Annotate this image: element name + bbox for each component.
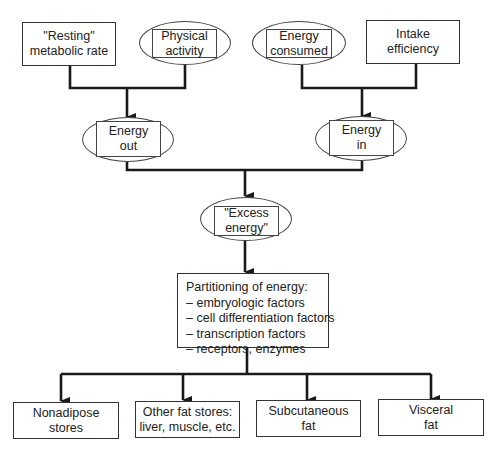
partitioning-item: – embryologic factors <box>186 296 320 312</box>
energy-out-label-box: Energy out <box>96 121 161 157</box>
energy-in-label-box: Energy in <box>329 120 394 156</box>
node-label-line: Energy <box>279 29 319 44</box>
energy-consumed-label-box: Energy consumed <box>266 29 332 58</box>
node-label-line: fat <box>302 419 316 434</box>
node-label-line: stores <box>49 421 83 436</box>
node-label-line: Other fat stores: <box>143 405 233 420</box>
partitioning-item: – receptors, enzymes <box>186 342 320 358</box>
node-label-line: energy" <box>225 221 268 236</box>
partitioning-of-energy-node: Partitioning of energy: – embryologic fa… <box>177 273 329 348</box>
physical-activity-label-box: Physical activity <box>152 29 217 58</box>
node-label-line: "Excess <box>224 206 269 221</box>
node-label-line: Intake <box>396 27 430 42</box>
intake-efficiency-node: Intake efficiency <box>366 20 460 64</box>
excess-energy-label-box: "Excess energy" <box>214 206 279 236</box>
node-label-line: Visceral <box>409 403 453 418</box>
node-label-line: "Resting" <box>43 29 94 44</box>
node-label-line: liver, muscle, etc. <box>140 420 236 435</box>
resting-metabolic-rate-node: "Resting" metabolic rate <box>22 22 116 66</box>
node-label-line: metabolic rate <box>30 44 109 59</box>
node-label-line: in <box>357 138 367 153</box>
node-label-line: Subcutaneous <box>269 404 349 419</box>
node-label-line: Nonadipose <box>33 406 100 421</box>
node-label-line: consumed <box>270 44 328 59</box>
node-label-line: activity <box>165 44 203 59</box>
partitioning-item: – cell differentiation factors <box>186 311 320 327</box>
visceral-fat-node: Visceral fat <box>378 399 484 436</box>
node-label-line: Energy <box>342 123 382 138</box>
other-fat-stores-node: Other fat stores: liver, muscle, etc. <box>135 401 240 438</box>
partitioning-item: – transcription factors <box>186 327 320 343</box>
node-label-line: Physical <box>161 29 208 44</box>
node-label-line: efficiency <box>387 42 439 57</box>
partitioning-title: Partitioning of energy: <box>186 280 320 296</box>
nonadipose-stores-node: Nonadipose stores <box>13 402 119 439</box>
node-label-line: Energy <box>109 124 149 139</box>
node-label-line: out <box>120 139 137 154</box>
subcutaneous-fat-node: Subcutaneous fat <box>256 400 361 437</box>
node-label-line: fat <box>424 418 438 433</box>
